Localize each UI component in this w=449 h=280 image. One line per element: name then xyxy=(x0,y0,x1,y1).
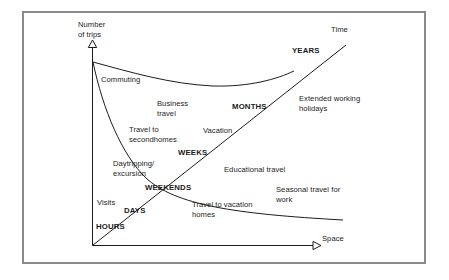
trip-label-extended-holidays-line1: Extended working xyxy=(299,94,360,103)
y-axis-label-line2: of trips xyxy=(78,30,101,39)
x-axis-label: Space xyxy=(322,234,344,243)
x-axis-arrowhead-icon xyxy=(313,241,321,249)
scale-label-years: YEARS xyxy=(292,46,320,55)
trip-label-business-travel-line2: travel xyxy=(157,109,176,118)
trip-label-visits: Visits xyxy=(97,198,115,207)
scale-label-months: MONTHS xyxy=(232,102,267,111)
trip-label-vacation-homes-line2: homes xyxy=(192,210,215,219)
trip-label-second-homes-line1: Travel to xyxy=(129,125,159,134)
figure-root: Number of trips Space Time YEARS MONTHS … xyxy=(0,0,449,280)
diagram-canvas xyxy=(0,0,449,280)
scale-label-hours: HOURS xyxy=(96,222,125,231)
trip-label-educational-travel: Educational travel xyxy=(224,165,285,174)
trip-label-business-travel-line1: Business xyxy=(157,99,188,108)
trip-label-second-homes-line2: secondhomes xyxy=(129,135,177,144)
trip-label-daytripping-line2: excursion xyxy=(113,169,146,178)
trip-label-vacation: Vacation xyxy=(203,126,232,135)
trip-label-commuting: Commuting xyxy=(101,75,140,84)
time-axis-label: Time xyxy=(331,25,348,34)
y-axis-arrowhead-icon xyxy=(88,40,96,48)
scale-label-days: DAYS xyxy=(124,206,146,215)
trip-label-seasonal-work-line1: Seasonal travel for xyxy=(276,185,340,194)
scale-label-weeks: WEEKS xyxy=(178,148,207,157)
y-axis-label-line1: Number xyxy=(78,20,105,29)
trip-label-extended-holidays-line2: holidays xyxy=(299,104,327,113)
scale-label-weekends: WEEKENDS xyxy=(145,183,191,192)
trip-label-seasonal-work-line2: work xyxy=(276,195,292,204)
trip-label-daytripping-line1: Daytripping/ xyxy=(113,159,154,168)
trip-label-vacation-homes-line1: Travel to vacation xyxy=(192,200,253,209)
